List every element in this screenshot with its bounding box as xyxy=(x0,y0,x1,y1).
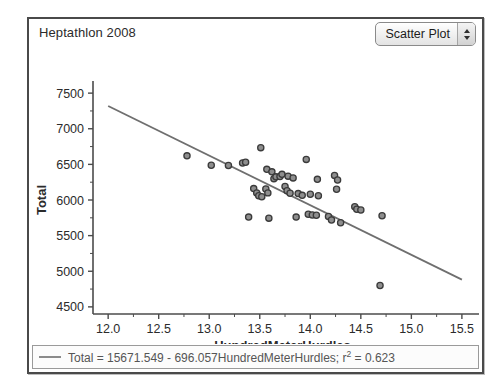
data-point[interactable] xyxy=(333,186,339,192)
x-axis-tick-label: 14.5 xyxy=(349,322,373,336)
y-axis-tick-label: 7500 xyxy=(56,87,84,101)
y-axis-tick-label: 5500 xyxy=(56,229,84,243)
y-axis-tick-label: 5000 xyxy=(56,265,84,279)
plot-type-dropdown[interactable]: Scatter Plot xyxy=(375,22,476,46)
legend: Total = 15671.549 - 696.057HundredMeterH… xyxy=(32,345,479,369)
data-point[interactable] xyxy=(313,212,319,218)
chevron-up-icon xyxy=(464,29,470,33)
data-point[interactable] xyxy=(377,282,383,288)
x-axis-title: HundredMeterHurdles xyxy=(214,338,351,344)
data-point[interactable] xyxy=(303,156,309,162)
y-axis-tick-label: 7000 xyxy=(56,122,84,136)
x-axis-tick-label: 15.0 xyxy=(399,322,423,336)
data-point[interactable] xyxy=(184,153,190,159)
data-point[interactable] xyxy=(299,192,305,198)
data-point[interactable] xyxy=(379,213,385,219)
x-axis-tick-label: 15.5 xyxy=(450,322,474,336)
data-point[interactable] xyxy=(279,171,285,177)
chart-header: Heptathlon 2008 Scatter Plot xyxy=(29,19,482,49)
data-point[interactable] xyxy=(293,214,299,220)
legend-equation-prefix: Total = 15671.549 - 696.057HundredMeterH… xyxy=(68,351,347,365)
x-axis-tick-label: 13.0 xyxy=(197,322,221,336)
data-point[interactable] xyxy=(266,215,272,221)
data-point[interactable] xyxy=(265,190,271,196)
x-axis-tick-label: 14.0 xyxy=(298,322,322,336)
y-axis-title: Total xyxy=(34,185,49,215)
data-point[interactable] xyxy=(243,159,249,165)
data-point[interactable] xyxy=(225,162,231,168)
data-point[interactable] xyxy=(287,190,293,196)
plot-type-selected-value: Scatter Plot xyxy=(376,23,457,45)
data-point[interactable] xyxy=(315,193,321,199)
data-point[interactable] xyxy=(307,191,313,197)
scatter-plot-area[interactable]: 450050005500600065007000750012.012.513.0… xyxy=(29,49,482,344)
y-axis-tick-label: 4500 xyxy=(56,300,84,314)
data-point[interactable] xyxy=(314,176,320,182)
data-point[interactable] xyxy=(290,175,296,181)
data-point[interactable] xyxy=(338,220,344,226)
data-point[interactable] xyxy=(328,217,334,223)
y-axis-tick-label: 6000 xyxy=(56,194,84,208)
data-point[interactable] xyxy=(259,194,265,200)
scatter-plot-svg: 450050005500600065007000750012.012.513.0… xyxy=(29,49,482,344)
legend-equation: Total = 15671.549 - 696.057HundredMeterH… xyxy=(68,349,395,365)
up-down-stepper-icon[interactable] xyxy=(457,23,475,45)
data-point[interactable] xyxy=(358,207,364,213)
data-point[interactable] xyxy=(208,162,214,168)
data-point[interactable] xyxy=(246,214,252,220)
legend-equation-suffix: = 0.623 xyxy=(351,351,395,365)
x-axis-tick-label: 13.5 xyxy=(248,322,272,336)
page-title: Heptathlon 2008 xyxy=(39,25,136,40)
x-axis-tick-label: 12.5 xyxy=(147,322,171,336)
x-axis-tick-label: 12.0 xyxy=(96,322,120,336)
data-points xyxy=(184,145,385,289)
chart-window-panel: Heptathlon 2008 Scatter Plot 45005000550… xyxy=(27,17,484,374)
data-point[interactable] xyxy=(334,177,340,183)
data-point[interactable] xyxy=(258,145,264,151)
chevron-down-icon xyxy=(464,36,470,40)
y-axis-tick-label: 6500 xyxy=(56,158,84,172)
screenshot-root: Heptathlon 2008 Scatter Plot 45005000550… xyxy=(0,0,504,388)
line-swatch-icon xyxy=(39,356,61,358)
